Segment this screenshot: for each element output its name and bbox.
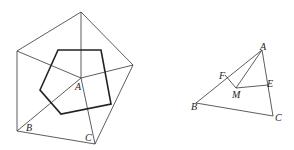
left-figure bbox=[17, 12, 133, 144]
label-left-C: C bbox=[85, 132, 92, 143]
outer-pentagon bbox=[17, 12, 133, 144]
label-right-C: C bbox=[275, 112, 282, 123]
label-right-M: M bbox=[231, 89, 241, 100]
label-left-B: B bbox=[26, 122, 32, 133]
label-right-A: A bbox=[259, 41, 267, 52]
triangle-ABC bbox=[196, 50, 273, 116]
label-right-B: B bbox=[191, 101, 197, 112]
label-left-A: A bbox=[74, 81, 82, 92]
geometry-figures: A B C A B C E F M bbox=[0, 0, 294, 150]
right-figure bbox=[196, 50, 273, 116]
label-right-F: F bbox=[218, 70, 226, 81]
label-right-E: E bbox=[266, 78, 273, 89]
